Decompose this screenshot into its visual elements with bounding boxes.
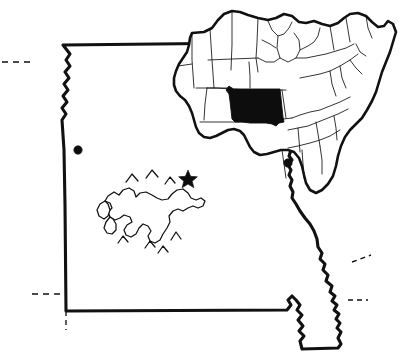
city-marker-east-dot[interactable] [284, 159, 292, 167]
inset-highlight-missouri [226, 86, 284, 126]
graticule-lat-tick-east-upper [352, 255, 371, 262]
city-marker-west-dot[interactable] [74, 146, 82, 154]
map-canvas [0, 0, 404, 359]
map-figure: Missouri [0, 0, 404, 359]
